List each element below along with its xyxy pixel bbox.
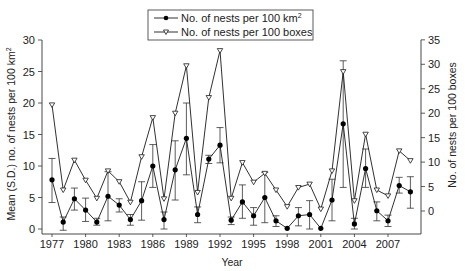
x-tick-label: 1998 bbox=[275, 238, 299, 250]
filled-circle-marker bbox=[352, 221, 357, 226]
filled-circle-marker bbox=[173, 167, 178, 172]
y-left-tick-label: 25 bbox=[23, 66, 35, 78]
y-left-tick-label: 0 bbox=[29, 223, 35, 235]
x-tick-label: 1983 bbox=[107, 238, 131, 250]
filled-circle-marker bbox=[195, 212, 200, 217]
filled-circle-marker bbox=[105, 194, 110, 199]
filled-circle-marker bbox=[318, 226, 323, 231]
open-triangle-marker bbox=[161, 197, 166, 202]
open-triangle-marker bbox=[385, 194, 390, 199]
filled-circle-marker bbox=[363, 166, 368, 171]
open-triangle-marker bbox=[173, 111, 178, 116]
x-tick-label: 2007 bbox=[376, 238, 400, 250]
x-tick-label: 2004 bbox=[342, 238, 366, 250]
y-right-axis-title: No. of nests per 100 boxes bbox=[446, 62, 458, 188]
filled-circle-marker bbox=[161, 217, 166, 222]
y-right-tick-label: 30 bbox=[428, 58, 440, 70]
filled-circle-marker bbox=[285, 226, 290, 231]
filled-circle-marker bbox=[94, 219, 99, 224]
open-triangle-marker bbox=[83, 178, 88, 183]
filled-circle-marker bbox=[83, 208, 88, 213]
open-triangle-marker bbox=[329, 169, 334, 174]
filled-circle-marker bbox=[139, 198, 144, 203]
open-triangle-marker bbox=[49, 103, 54, 108]
open-triangle-marker bbox=[296, 186, 301, 191]
filled-circle-marker bbox=[385, 218, 390, 223]
filled-circle-marker bbox=[307, 212, 312, 217]
open-triangle-marker bbox=[318, 207, 323, 212]
filled-circle-marker bbox=[296, 213, 301, 218]
open-triangle-marker bbox=[273, 188, 278, 193]
y-right-tick-label: 15 bbox=[428, 132, 440, 144]
legend: No. of nests per 100 km2 No. of nests pe… bbox=[148, 10, 313, 40]
chart: 0510152025300510152025303519771980198319… bbox=[0, 0, 465, 271]
filled-circle-marker bbox=[72, 196, 77, 201]
x-tick-label: 2001 bbox=[309, 238, 333, 250]
series-boxes-line bbox=[52, 51, 410, 209]
open-triangle-marker bbox=[128, 200, 133, 205]
filled-circle-marker bbox=[374, 208, 379, 213]
filled-circle-marker bbox=[273, 218, 278, 223]
filled-circle-marker bbox=[217, 143, 222, 148]
open-triangle-marker bbox=[184, 64, 189, 69]
y-left-tick-label: 30 bbox=[23, 34, 35, 46]
filled-circle-marker bbox=[117, 202, 122, 207]
filled-circle-marker bbox=[128, 217, 133, 222]
open-triangle-marker bbox=[240, 161, 245, 166]
open-triangle-marker bbox=[206, 96, 211, 101]
legend-item-boxes: No. of nests per 100 boxes bbox=[181, 26, 313, 38]
open-triangle-marker bbox=[229, 196, 234, 201]
y-left-tick-label: 5 bbox=[29, 192, 35, 204]
open-triangle-marker bbox=[408, 159, 413, 164]
open-triangle-marker bbox=[285, 205, 290, 210]
open-triangle-marker bbox=[374, 188, 379, 193]
filled-circle-marker bbox=[329, 197, 334, 202]
y-left-axis-title: Mean (S.D.) no. of nests per 100 km2 bbox=[5, 47, 17, 220]
legend-item-km2: No. of nests per 100 km2 bbox=[181, 12, 302, 24]
filled-circle-marker bbox=[49, 177, 54, 182]
filled-circle-marker bbox=[397, 183, 402, 188]
y-right-tick-label: 25 bbox=[428, 83, 440, 95]
open-triangle-marker bbox=[94, 196, 99, 201]
y-right-tick-label: 10 bbox=[428, 156, 440, 168]
open-triangle-marker bbox=[195, 190, 200, 195]
x-tick-label: 1995 bbox=[241, 238, 265, 250]
filled-circle-marker bbox=[61, 219, 66, 224]
filled-circle-marker bbox=[229, 218, 234, 223]
open-triangle-marker bbox=[363, 132, 368, 137]
x-tick-label: 1986 bbox=[141, 238, 165, 250]
x-axis-title: Year bbox=[221, 256, 243, 268]
open-triangle-marker bbox=[150, 116, 155, 121]
filled-circle-marker bbox=[251, 213, 256, 218]
open-triangle-marker bbox=[217, 49, 222, 54]
y-right-tick-label: 5 bbox=[428, 181, 434, 193]
filled-circle-marker bbox=[240, 199, 245, 204]
filled-circle-icon bbox=[164, 16, 169, 21]
error-bars bbox=[49, 61, 414, 230]
open-triangle-marker bbox=[72, 158, 77, 163]
filled-circle-marker bbox=[150, 163, 155, 168]
x-tick-label: 1989 bbox=[174, 238, 198, 250]
y-left-tick-label: 10 bbox=[23, 160, 35, 172]
open-triangle-marker bbox=[139, 155, 144, 160]
filled-circle-marker bbox=[262, 195, 267, 200]
open-triangle-marker bbox=[61, 188, 66, 193]
x-tick-label: 1977 bbox=[40, 238, 64, 250]
x-tick-label: 1992 bbox=[208, 238, 232, 250]
filled-circle-marker bbox=[206, 156, 211, 161]
y-left-tick-label: 20 bbox=[23, 97, 35, 109]
open-triangle-marker bbox=[117, 180, 122, 185]
filled-circle-marker bbox=[341, 121, 346, 126]
y-right-tick-label: 0 bbox=[428, 205, 434, 217]
series-lines bbox=[52, 51, 410, 229]
filled-circle-marker bbox=[184, 136, 189, 141]
y-right-tick-label: 20 bbox=[428, 107, 440, 119]
y-left-tick-label: 15 bbox=[23, 129, 35, 141]
open-triangle-marker bbox=[352, 199, 357, 204]
filled-circle-marker bbox=[408, 189, 413, 194]
open-triangle-marker bbox=[251, 180, 256, 185]
open-triangle-marker bbox=[341, 70, 346, 75]
y-right-tick-label: 35 bbox=[428, 34, 440, 46]
x-tick-label: 1980 bbox=[73, 238, 97, 250]
